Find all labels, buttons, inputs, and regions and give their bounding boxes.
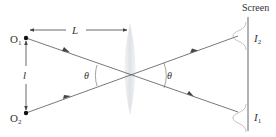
angle-label-right: θ — [167, 70, 172, 81]
intensity-profile-lower — [233, 104, 246, 132]
angle-arc-left — [95, 65, 97, 86]
optics-diagram: L l θ θ O1 O2 Screen I2 I1 — [0, 0, 276, 137]
screen-label: Screen — [242, 2, 269, 13]
distance-label: L — [71, 24, 78, 36]
source-o1-dot — [24, 36, 28, 40]
source-o1-label: O1 — [10, 33, 22, 47]
angle-label-left: θ — [84, 70, 89, 81]
separation-label: l — [23, 69, 26, 81]
source-o2-label: O2 — [10, 112, 22, 126]
image-i2-label: I2 — [253, 32, 262, 46]
ray-arrow-icon — [62, 47, 70, 53]
source-o2-dot — [24, 111, 28, 115]
intensity-profile-upper — [233, 22, 246, 50]
lens — [125, 24, 135, 114]
angle-arc-right — [164, 63, 166, 88]
image-i1-label: I1 — [253, 111, 262, 125]
